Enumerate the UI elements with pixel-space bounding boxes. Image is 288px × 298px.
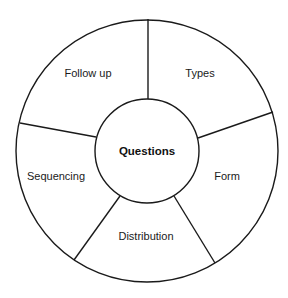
divider-distribution-sequencing [74,196,120,260]
segment-label-sequencing: Sequencing [27,170,85,182]
divider-form-distribution [174,196,215,263]
divider-types-form [198,112,273,138]
questions-wheel-diagram: Questions Types Form Distribution Sequen… [0,0,288,298]
segment-label-form: Form [214,170,240,182]
divider-sequencing-followup [20,123,96,137]
segment-label-distribution: Distribution [118,230,173,242]
segment-label-types: Types [185,67,215,79]
center-label: Questions [119,145,175,157]
segment-label-follow-up: Follow up [64,67,111,79]
